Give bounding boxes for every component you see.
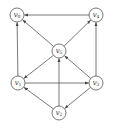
node-v0: v0 — [10, 8, 24, 22]
node-subscript: 2 — [60, 112, 63, 117]
node-subscript: 4 — [97, 14, 100, 19]
node-subscript: 1 — [19, 82, 22, 87]
edges-layer — [17, 15, 96, 109]
node-v2: v2 — [52, 106, 66, 120]
node-subscript: 3 — [97, 82, 100, 87]
graph-canvas: v0v4v5v1v3v2 — [0, 0, 113, 129]
nodes-layer: v0v4v5v1v3v2 — [10, 8, 103, 120]
edge-v3-to-v5 — [65, 56, 91, 79]
edge-v5-to-v1 — [24, 55, 54, 78]
edge-v5-to-v4 — [64, 20, 91, 46]
edge-v2-to-v1 — [24, 87, 53, 109]
edge-v5-to-v0 — [23, 20, 54, 47]
node-subscript: 5 — [60, 50, 63, 55]
node-v4: v4 — [89, 8, 103, 22]
node-v3: v3 — [89, 76, 103, 90]
node-v5: v5 — [52, 44, 66, 58]
edge-v1-to-v0 — [17, 22, 18, 76]
node-v1: v1 — [11, 76, 25, 90]
directed-graph: v0v4v5v1v3v2 — [0, 0, 113, 129]
edge-v3-to-v2 — [65, 87, 91, 108]
node-subscript: 0 — [18, 14, 21, 19]
